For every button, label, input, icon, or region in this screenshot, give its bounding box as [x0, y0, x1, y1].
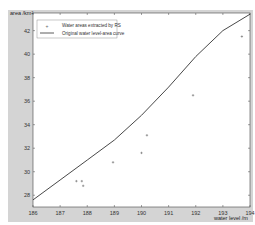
- legend-marker-icon: +: [46, 23, 49, 29]
- x-tick-label: 188: [83, 210, 92, 216]
- legend-entry-curve: Original water level-area curve: [62, 31, 125, 36]
- plot-area: [33, 13, 250, 207]
- x-tick-label: 187: [56, 210, 65, 216]
- x-axis-label: water level /m: [213, 215, 248, 221]
- y-axis-label: area /km²: [10, 10, 33, 16]
- x-tick-label: 186: [28, 210, 37, 216]
- chart: 186187188189190191192193194 283032343638…: [0, 0, 255, 225]
- y-tick-label: 30: [24, 169, 30, 175]
- legend-entry-rs: Water areas extracted by RS: [62, 23, 121, 28]
- y-tick-label: 34: [24, 122, 30, 128]
- y-tick-label: 42: [24, 28, 30, 34]
- y-tick-label: 32: [24, 145, 30, 151]
- x-tick-label: 191: [164, 210, 173, 216]
- y-tick-label: 28: [24, 192, 30, 198]
- legend: + Water areas extracted by RS Original w…: [37, 20, 125, 38]
- x-tick-label: 192: [191, 210, 200, 216]
- y-tick-label: 38: [24, 75, 30, 81]
- y-tick-label: 40: [24, 51, 30, 57]
- x-tick-label: 189: [110, 210, 119, 216]
- x-tick-label: 190: [137, 210, 146, 216]
- y-tick-label: 36: [24, 98, 30, 104]
